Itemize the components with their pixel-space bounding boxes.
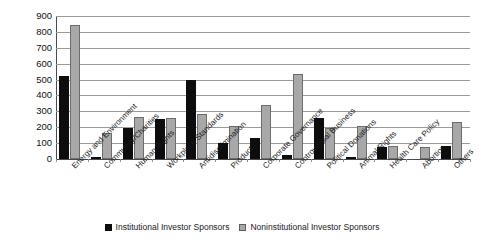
bar-chart: 0100200300400500600700800900 Energy and … — [0, 0, 484, 243]
x-axis-tickmark — [438, 159, 439, 162]
y-axis-tick-label: 500 — [12, 75, 52, 85]
x-axis-tickmark — [406, 159, 407, 162]
bar-institutional[interactable] — [282, 155, 292, 159]
y-axis-tick-label: 0 — [12, 154, 52, 164]
y-axis-tick-label: 800 — [12, 27, 52, 37]
bar-group — [56, 16, 88, 159]
legend-label-institutional: Institutional Investor Sponsors — [116, 222, 230, 232]
plot-area — [56, 16, 470, 159]
chart-legend: Institutional Investor Sponsors Noninsti… — [0, 222, 484, 232]
x-axis-tickmark — [183, 159, 184, 162]
x-axis-tickmark — [247, 159, 248, 162]
x-axis-tickmark — [374, 159, 375, 162]
x-axis-tickmark — [343, 159, 344, 162]
y-axis-tick-label: 300 — [12, 107, 52, 117]
y-axis-tick-label: 900 — [12, 11, 52, 21]
legend-item-institutional[interactable]: Institutional Investor Sponsors — [105, 222, 230, 232]
bar-noninstitutional[interactable] — [293, 74, 303, 159]
y-axis-tick-label: 200 — [12, 122, 52, 132]
bar-institutional[interactable] — [91, 157, 101, 159]
y-axis-tick-label: 700 — [12, 43, 52, 53]
y-axis-tick-label: 600 — [12, 59, 52, 69]
x-axis-tickmark — [152, 159, 153, 162]
x-axis-tickmark — [311, 159, 312, 162]
bar-institutional[interactable] — [346, 157, 356, 159]
legend-label-noninstitutional: Noninstitutional Investor Sponsors — [250, 222, 379, 232]
x-axis-tickmark — [88, 159, 89, 162]
y-axis-tick-label: 400 — [12, 91, 52, 101]
bar-noninstitutional[interactable] — [70, 25, 80, 159]
x-axis-tickmark — [120, 159, 121, 162]
bar-noninstitutional[interactable] — [261, 105, 271, 159]
x-axis-tickmark — [279, 159, 280, 162]
bar-group — [247, 16, 279, 159]
legend-item-noninstitutional[interactable]: Noninstitutional Investor Sponsors — [239, 222, 379, 232]
x-axis-tickmark — [215, 159, 216, 162]
y-axis-tick-label: 100 — [12, 138, 52, 148]
black-square-marker-icon — [105, 224, 112, 231]
x-axis-tickmark — [470, 159, 471, 162]
bar-institutional[interactable] — [59, 76, 69, 159]
bar-group — [438, 16, 470, 159]
y-axis-tick-labels: 0100200300400500600700800900 — [8, 16, 52, 159]
gray-square-marker-icon — [239, 224, 246, 231]
x-axis-tickmark — [56, 159, 57, 162]
